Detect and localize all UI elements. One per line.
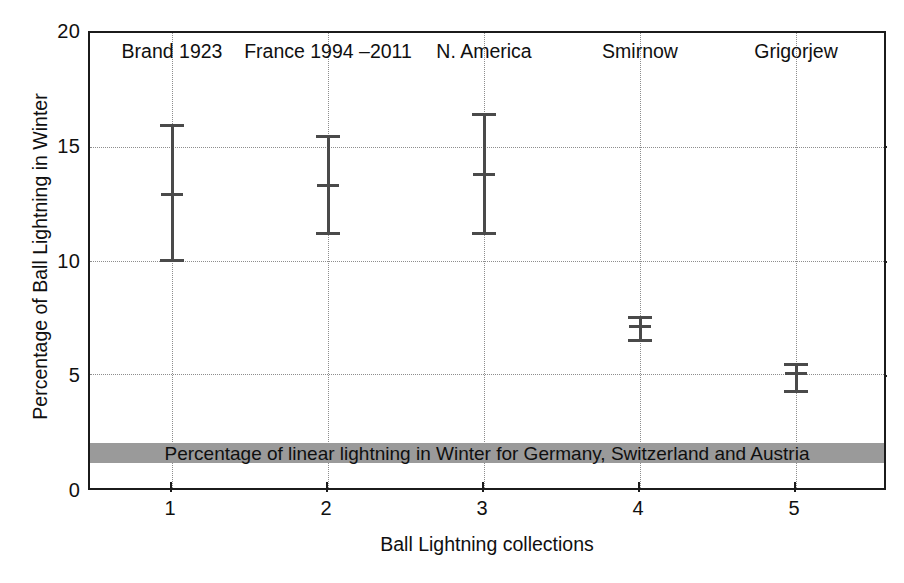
- errorbar-1-cap-upper: [160, 124, 184, 127]
- x-axis-tick-labels: 1 2 3 4 5: [88, 497, 886, 527]
- gridline-x-4: [640, 33, 641, 488]
- series-label-france: France 1994 –2011: [244, 40, 412, 63]
- errorbar-5-cap-upper: [784, 363, 808, 366]
- x-axis-title: Ball Lightning collections: [88, 533, 886, 556]
- x-tick-label-5: 5: [788, 497, 799, 520]
- x-tick-mark-4: [638, 482, 640, 492]
- gridline-y-5: [90, 374, 884, 375]
- x-tick-mark-1: [170, 482, 172, 492]
- linear-lightning-band: Percentage of linear lightning in Winter…: [90, 443, 884, 463]
- errorbar-5-cap-lower: [784, 390, 808, 393]
- errorbar-2-cap-lower: [316, 232, 340, 235]
- y-axis-title: Percentage of Ball Lightning in Winter: [29, 22, 52, 492]
- y-tick-label-10: 10: [57, 249, 80, 272]
- errorbar-4-cap-upper: [628, 316, 652, 319]
- gridline-y-10: [90, 261, 884, 262]
- errorbar-3-marker: [473, 173, 495, 176]
- x-tick-mark-2: [326, 482, 328, 492]
- y-tick-label-0: 0: [69, 479, 80, 502]
- x-tick-label-1: 1: [164, 497, 175, 520]
- linear-lightning-band-label: Percentage of linear lightning in Winter…: [165, 444, 810, 463]
- x-tick-mark-5: [794, 482, 796, 492]
- y-tick-label-5: 5: [69, 364, 80, 387]
- errorbar-2-marker: [317, 184, 339, 187]
- chart-figure: 20 15 10 5 0 Percentage of Ball Lightnin…: [0, 0, 904, 583]
- series-label-n-america: N. America: [436, 40, 531, 63]
- errorbar-4-line: [639, 317, 642, 341]
- errorbar-4-marker: [629, 325, 651, 328]
- x-tick-label-3: 3: [476, 497, 487, 520]
- y-tick-label-15: 15: [57, 134, 80, 157]
- errorbar-3-cap-lower: [472, 232, 496, 235]
- gridline-y-15: [90, 147, 884, 148]
- series-label-grigorjew: Grigorjew: [754, 40, 837, 63]
- y-tick-label-20: 20: [57, 20, 80, 43]
- errorbar-4-cap-lower: [628, 339, 652, 342]
- errorbar-5-line: [795, 364, 798, 392]
- series-label-brand-1923: Brand 1923: [122, 40, 223, 63]
- gridline-x-3: [484, 33, 485, 488]
- x-tick-mark-3: [482, 482, 484, 492]
- gridline-x-5: [796, 33, 797, 488]
- gridline-x-2: [328, 33, 329, 488]
- errorbar-5-marker: [785, 372, 807, 375]
- x-tick-label-4: 4: [632, 497, 643, 520]
- x-axis-ticks: [88, 480, 886, 492]
- series-label-smirnow: Smirnow: [602, 40, 678, 63]
- plot-area: Brand 1923 France 1994 –2011 N. America …: [88, 31, 886, 490]
- errorbar-3-cap-upper: [472, 113, 496, 116]
- errorbar-1-cap-lower: [160, 259, 184, 262]
- x-tick-label-2: 2: [320, 497, 331, 520]
- errorbar-2-cap-upper: [316, 135, 340, 138]
- errorbar-1-marker: [161, 193, 183, 196]
